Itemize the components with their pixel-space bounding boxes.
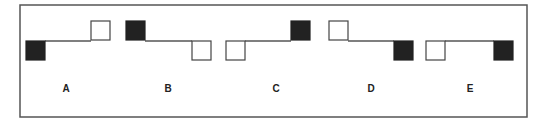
option-label: B: [164, 83, 171, 94]
empty-square-left: [426, 41, 445, 60]
option-b: B: [126, 21, 211, 94]
option-label: A: [62, 83, 69, 94]
option-c: C: [226, 21, 310, 94]
diagram: ABCDE: [0, 0, 547, 120]
option-e: E: [426, 41, 513, 94]
option-a: A: [26, 21, 110, 94]
filled-square-right: [394, 41, 413, 60]
option-d: D: [329, 21, 413, 94]
filled-square-right: [494, 41, 513, 60]
option-label: C: [272, 83, 279, 94]
filled-square-left: [26, 41, 45, 60]
empty-square-right: [91, 21, 110, 40]
option-label: E: [467, 83, 474, 94]
options-layer: ABCDE: [26, 21, 513, 94]
filled-square-left: [126, 21, 145, 40]
empty-square-left: [226, 41, 245, 60]
empty-square-right: [192, 41, 211, 60]
filled-square-right: [291, 21, 310, 40]
empty-square-left: [329, 21, 348, 40]
option-label: D: [367, 83, 374, 94]
